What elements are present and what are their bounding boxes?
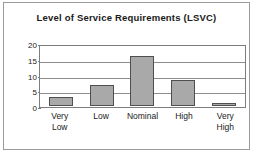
y-tick-label: 20 (28, 41, 37, 50)
bar-high[interactable] (171, 80, 195, 106)
chart-title: Level of Service Requirements (LSVC) (4, 12, 249, 23)
x-axis-labels: VeryLowLowNominalHighVeryHigh (39, 111, 246, 133)
bar-very-low[interactable] (49, 97, 73, 106)
y-tick-label: 0 (33, 104, 37, 113)
bar-slot (122, 47, 163, 106)
x-tick-label: Nominal (122, 111, 163, 133)
bar-low[interactable] (90, 85, 114, 106)
x-tick-label: High (163, 111, 204, 133)
y-tick-label: 15 (28, 56, 37, 65)
x-tick-label: Low (80, 111, 121, 133)
y-tick-label: 10 (28, 72, 37, 81)
x-tick-label: VeryLow (39, 111, 80, 133)
bar-slot (163, 47, 204, 106)
bar-very-high[interactable] (212, 103, 236, 106)
bar-slot (41, 47, 82, 106)
plot-area (39, 45, 246, 108)
y-axis-labels: 05101520 (18, 45, 37, 108)
bars-layer (41, 47, 244, 106)
chart-frame: Level of Service Requirements (LSVC) 051… (3, 2, 250, 150)
x-tick-label: VeryHigh (205, 111, 246, 133)
bar-slot (203, 47, 244, 106)
bar-nominal[interactable] (130, 56, 154, 106)
bar-slot (82, 47, 123, 106)
y-tick-label: 5 (33, 88, 37, 97)
y-tick-mark (38, 108, 41, 109)
plot-area-wrapper (39, 45, 246, 108)
